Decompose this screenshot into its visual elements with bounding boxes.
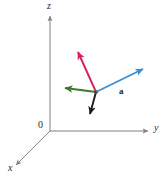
axis-label-x: x bbox=[8, 163, 12, 173]
vector-label-a: a bbox=[119, 87, 124, 96]
crimson-vector bbox=[78, 52, 96, 92]
diagram-canvas bbox=[0, 0, 166, 178]
green-vector bbox=[65, 88, 96, 92]
axis-label-z: z bbox=[47, 1, 51, 11]
crimson-vector-line bbox=[78, 52, 96, 92]
axis-x bbox=[16, 131, 50, 165]
green-vector-line bbox=[65, 88, 96, 92]
origin-label: 0 bbox=[38, 120, 43, 130]
vector-diagram: z y x 0 a bbox=[0, 0, 166, 178]
black-vector bbox=[90, 92, 96, 114]
axis-label-y: y bbox=[154, 123, 158, 133]
black-vector-line bbox=[90, 92, 96, 114]
axis-x-line bbox=[16, 131, 50, 165]
